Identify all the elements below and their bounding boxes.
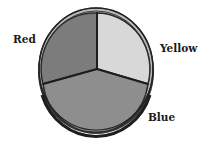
label-blue: Blue bbox=[148, 112, 175, 123]
pie-chart-figure: Red Yellow Blue bbox=[0, 0, 202, 142]
label-yellow: Yellow bbox=[160, 43, 197, 54]
label-red: Red bbox=[13, 34, 36, 45]
